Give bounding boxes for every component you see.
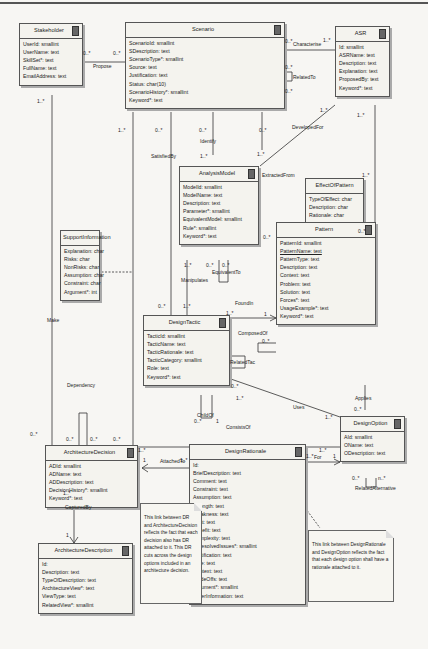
multiplicity: 0..*: [259, 127, 267, 133]
multiplicity: 1: [66, 532, 69, 538]
label-extracted-from: ExtractedFrom: [262, 172, 295, 178]
class-pattern[interactable]: Pattern PatternId: smallint PatternName:…: [276, 222, 376, 325]
multiplicity: 1..*: [306, 453, 314, 459]
class-header: ArchitectureDecision: [46, 446, 137, 461]
attribute: Keyword*: text: [280, 314, 372, 322]
label-make: Make: [47, 317, 59, 323]
class-attributes: PatternId: smallint PatternName: text Pa…: [277, 238, 375, 325]
class-name: SupportInformation: [63, 234, 111, 240]
multiplicity: 0..*: [358, 228, 366, 234]
label-propose: Propose: [93, 63, 112, 69]
class-name: DesignTactic: [169, 319, 201, 325]
label-for: For: [314, 454, 322, 460]
label-identify: Identify: [200, 138, 216, 144]
class-attributes: Id: BriefDescription: text Comment: text…: [190, 460, 305, 604]
multiplicity: 1..*: [236, 395, 244, 401]
multiplicity: 0..*: [158, 303, 166, 309]
multiplicity: 1..*: [257, 151, 265, 157]
multiplicity: 0..*: [66, 436, 74, 442]
label-uses: Uses: [293, 404, 304, 410]
multiplicity: 1..*: [323, 37, 331, 43]
label-dependency: Dependency: [67, 382, 95, 388]
class-attributes: ModelId: smallint ModelName: text Descri…: [180, 182, 258, 244]
class-name: ASR: [355, 30, 367, 36]
attribute: RelatedView*: smallint: [42, 603, 129, 611]
class-stakeholder[interactable]: Stakeholder UserId: smallint UserName: t…: [19, 23, 83, 86]
class-design-tactic[interactable]: DesignTactic TacticId: smallint TacticNa…: [143, 315, 230, 386]
multiplicity: 1..*: [320, 107, 328, 113]
class-analysis-model[interactable]: AnalysisModel ModelId: smallint ModelNam…: [179, 166, 259, 245]
multiplicity: 1..*: [138, 447, 146, 453]
attribute: ODescription: text: [344, 451, 401, 459]
class-header: Scenario: [126, 23, 284, 38]
multiplicity: 1..*: [325, 414, 333, 420]
multiplicity: 0..*: [285, 38, 293, 44]
attribute: Argument*: int: [64, 290, 96, 298]
class-icon: [274, 25, 281, 35]
multiplicity: 0..*: [30, 431, 38, 437]
multiplicity: 0..*: [113, 50, 121, 56]
class-attributes: TypeOfEffect: char Description: char Rat…: [306, 194, 363, 224]
class-architecture-description[interactable]: ArchitectureDescription Id: Description:…: [38, 543, 133, 614]
multiplicity: 1..*: [362, 172, 370, 178]
multiplicity: 1: [264, 311, 267, 317]
class-asr[interactable]: ASR Id: smallint ASRName: text Descripti…: [335, 26, 390, 97]
class-support-information[interactable]: SupportInformation Explanation: char Ris…: [60, 230, 100, 301]
class-header: EffectOfPattern: [306, 179, 363, 194]
class-name: DesignRationale: [225, 448, 266, 454]
class-icon: [365, 225, 372, 235]
multiplicity: 1: [333, 453, 336, 459]
class-scenario[interactable]: Scenario ScenarioId: smallint SDescripti…: [125, 22, 285, 109]
class-header: SupportInformation: [61, 231, 99, 246]
multiplicity: 1..*: [184, 262, 192, 268]
class-name: DesignOption: [354, 420, 388, 426]
note-dr-design-option: This link between DesignRationale and De…: [308, 530, 394, 602]
class-name: ArchitectureDecision: [64, 449, 115, 455]
class-name: Pattern: [315, 226, 333, 232]
label-satisfied-by: SatisfiedBy: [151, 153, 176, 159]
class-header: DesignTactic: [144, 316, 229, 331]
attribute: Keyword*: text: [339, 86, 386, 94]
multiplicity: 1: [216, 418, 219, 424]
multiplicity: 0..*: [222, 262, 230, 268]
label-related-tac: RelatedTac: [230, 359, 255, 365]
note-fold-corner: [386, 530, 394, 538]
multiplicity: 1..*: [200, 153, 208, 159]
multiplicity: 0..*: [194, 418, 202, 424]
multiplicity: 1..*: [183, 303, 191, 309]
class-icon: [295, 447, 302, 457]
class-design-rationale[interactable]: DesignRationale Id: BriefDescription: te…: [189, 444, 306, 605]
label-related-to: RelatedTo: [293, 74, 316, 80]
class-icon: [219, 318, 226, 328]
multiplicity: 1..*: [226, 310, 234, 316]
attribute: Keyword*: text: [49, 496, 134, 504]
multiplicity: 1..*: [63, 490, 71, 496]
label-applies: Applies: [355, 395, 371, 401]
class-attributes: Id: smallint ASRName: text Description: …: [336, 42, 389, 96]
class-header: DesignRationale: [190, 445, 305, 460]
attribute: EmailAddress: text: [23, 74, 79, 82]
attribute: Rationale: char: [309, 213, 360, 221]
class-header: AnalysisModel: [180, 167, 258, 182]
multiplicity: 0..*: [285, 64, 293, 70]
class-design-option[interactable]: DesignOption AId: smallint OName: text O…: [340, 416, 405, 462]
multiplicity: 0..*: [263, 234, 271, 240]
class-effect-of-pattern[interactable]: EffectOfPattern TypeOfEffect: char Descr…: [305, 178, 364, 224]
class-attributes: ScenarioId: smallint SDescription: text …: [126, 38, 284, 109]
multiplicity: 1..*: [37, 98, 45, 104]
attribute: Keyword*: text: [147, 375, 226, 383]
multiplicity: 1..*: [357, 112, 365, 118]
multiplicity: 0..*: [199, 127, 207, 133]
label-developed-for: DevelopedFor: [292, 124, 323, 130]
attribute: Keyword*: text: [183, 234, 255, 242]
label-consists-of: ConsistsOf: [226, 424, 250, 430]
multiplicity: 1..*: [180, 457, 188, 463]
multiplicity: 0..*: [354, 406, 362, 412]
class-icon: [72, 26, 79, 36]
class-architecture-decision[interactable]: ArchitectureDecision ADId: smallint ADNa…: [45, 445, 138, 508]
uml-class-diagram: Stakeholder UserId: smallint UserName: t…: [0, 0, 428, 649]
multiplicity: 0..*: [90, 436, 98, 442]
label-composed-of: ComposedOf: [238, 330, 267, 336]
note-text: This link between DR and ArchitectureDec…: [144, 515, 198, 573]
multiplicity: 0..*: [285, 88, 293, 94]
